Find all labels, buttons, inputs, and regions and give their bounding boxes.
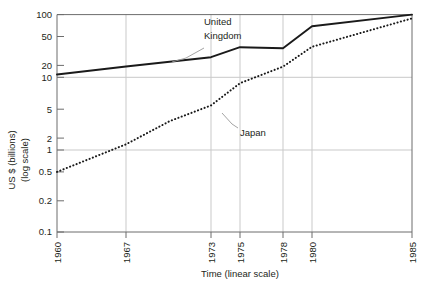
x-axis-tick-labels: 1960 1967 1973 1975 1978 1980 1985 — [52, 242, 418, 263]
series-label-japan: Japan — [240, 127, 266, 138]
series-label-united-kingdom-line1: United — [204, 16, 231, 27]
leader-line-japan — [222, 113, 238, 128]
y-axis-tickmarks — [57, 15, 64, 232]
ytick-label-100: 100 — [36, 9, 52, 20]
xtick-label-1960: 1960 — [52, 242, 63, 263]
ytick-label-0.5: 0.5 — [39, 166, 52, 177]
y-axis-title-line2: (log scale) — [19, 138, 30, 182]
ytick-label-20: 20 — [41, 60, 52, 71]
y-axis-tick-labels: 100 50 20 10 5 2 1 0.5 0.2 0.1 — [36, 9, 52, 237]
series-line-japan — [57, 18, 412, 172]
line-chart: 100 50 20 10 5 2 1 0.5 0.2 0.1 1960 1967… — [0, 0, 432, 285]
x-axis-tickmarks — [57, 232, 412, 238]
ytick-label-0.2: 0.2 — [39, 195, 52, 206]
series-label-united-kingdom-line2: Kingdom — [204, 30, 242, 41]
x-axis-title: Time (linear scale) — [201, 268, 279, 279]
ytick-label-10: 10 — [41, 72, 52, 83]
series-line-united-kingdom — [57, 15, 412, 75]
xtick-label-1980: 1980 — [307, 242, 318, 263]
ytick-label-50: 50 — [41, 31, 52, 42]
ytick-label-0.1: 0.1 — [39, 226, 52, 237]
xtick-label-1985: 1985 — [407, 242, 418, 263]
xtick-label-1973: 1973 — [206, 242, 217, 263]
chart-container: 100 50 20 10 5 2 1 0.5 0.2 0.1 1960 1967… — [0, 0, 432, 285]
ytick-label-5: 5 — [47, 104, 52, 115]
y-axis-title-line1: US $ (billions) — [6, 130, 17, 189]
plot-frame — [57, 15, 412, 232]
xtick-label-1978: 1978 — [278, 242, 289, 263]
horizontal-gridlines — [57, 77, 412, 150]
xtick-label-1967: 1967 — [121, 242, 132, 263]
ytick-label-1: 1 — [47, 144, 52, 155]
xtick-label-1975: 1975 — [235, 242, 246, 263]
ytick-label-2: 2 — [47, 133, 52, 144]
